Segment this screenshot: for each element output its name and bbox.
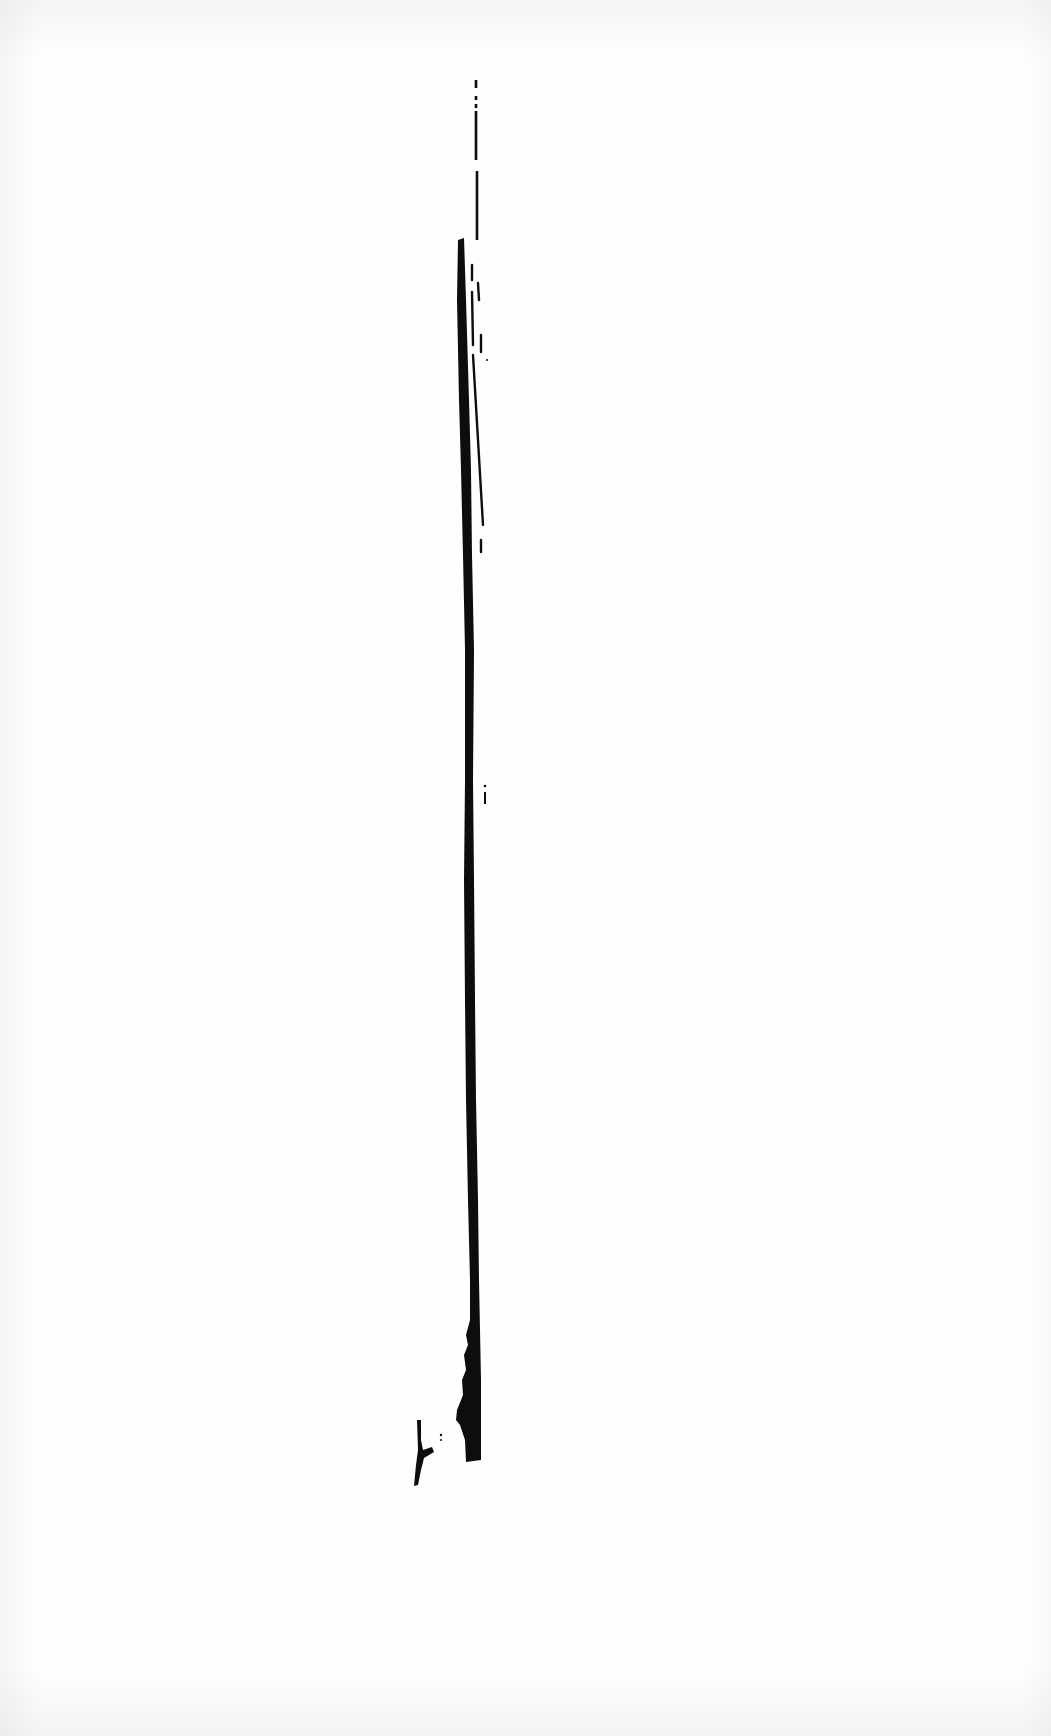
dash-segment — [478, 283, 479, 300]
hook-ink-stroke — [414, 1420, 434, 1486]
ink-speck — [440, 1434, 442, 1436]
ink-speck — [440, 1439, 442, 1441]
ink-speck — [484, 785, 487, 788]
secondary-thin-line — [472, 265, 483, 552]
ink-drawing — [0, 0, 1051, 1736]
scanned-paper — [0, 0, 1051, 1736]
ink-speck — [486, 359, 488, 361]
dash-segment — [473, 355, 483, 525]
dash-segment — [472, 292, 473, 345]
top-dashed-line — [476, 80, 477, 240]
